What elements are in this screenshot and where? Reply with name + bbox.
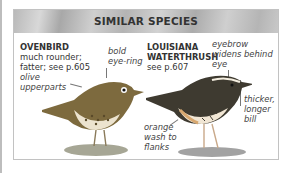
- panel-title: SIMILAR SPECIES: [94, 15, 198, 27]
- ovenbird-desc-1: much rounder;: [20, 52, 82, 62]
- ovenbird-illustration: [34, 70, 144, 160]
- waterthrush-name-1: LOUISIANA: [147, 42, 198, 52]
- waterthrush-eyebrow-1: eyebrow: [212, 39, 248, 49]
- ovenbird-eyering-1: bold: [108, 46, 126, 56]
- page-edge: [0, 0, 2, 173]
- waterthrush-illustration: [142, 68, 252, 158]
- panel-header: SIMILAR SPECIES: [14, 10, 278, 33]
- ovenbird-name: OVENBIRD: [20, 42, 69, 52]
- similar-species-panel: SIMILAR SPECIES OVENBIRD much rounder; f…: [13, 9, 279, 160]
- waterthrush-name-2: WATERTHRUSH: [147, 52, 218, 62]
- ovenbird-eyering-2: eye-ring: [108, 56, 143, 66]
- waterthrush-eyebrow-2: widens behind: [212, 49, 273, 59]
